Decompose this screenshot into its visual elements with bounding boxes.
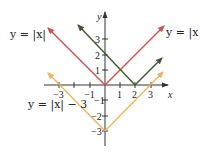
- y-tick-neg1: −1: [94, 95, 105, 106]
- y-axis-label: y: [96, 11, 102, 22]
- y-tick-2: 2: [95, 50, 100, 61]
- y-tick-neg2: −2: [91, 111, 102, 122]
- curve-abs-x-minus-2: [78, 25, 162, 85]
- x-tick-3: 3: [148, 89, 153, 100]
- x-axis-label: x: [167, 89, 173, 100]
- y-tick-1: 1: [95, 65, 100, 76]
- x-tick-1: 1: [117, 89, 122, 100]
- y-tick-neg3: −3: [91, 126, 102, 137]
- label-abs-x: y = |x|: [9, 28, 46, 42]
- label-abs-x-minus-2: y = |x −: [165, 26, 200, 40]
- label-abs-x-minus-3: y = |x| − 3: [27, 98, 87, 112]
- abs-value-graph: −3 −1 1 2 3 x 1 2 3 −1 −2 −3 y y = |x| y…: [0, 0, 200, 156]
